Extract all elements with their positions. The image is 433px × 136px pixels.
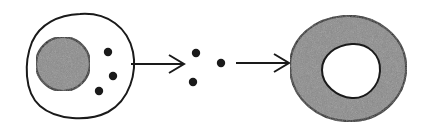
arrow-right-icon: [236, 54, 289, 72]
granule: [109, 72, 117, 80]
granule: [189, 78, 197, 86]
granule: [192, 49, 200, 57]
inner-hole: [322, 44, 380, 98]
arrow-right-icon: [131, 55, 184, 73]
granule: [95, 87, 103, 95]
nucleus: [36, 37, 90, 91]
ring-cell: [290, 16, 406, 121]
released-granules: [189, 49, 225, 86]
granule: [217, 59, 225, 67]
cell-transformation-diagram: [0, 0, 433, 136]
granule: [104, 48, 112, 56]
source-cell: [27, 14, 134, 118]
